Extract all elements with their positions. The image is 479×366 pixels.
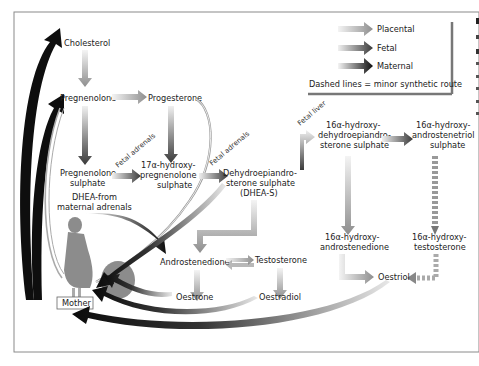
node-mother: Mother [62,298,92,308]
arrow-pregnenolone-sulphate [78,106,92,165]
progesterone-to-mother-curve [96,99,211,282]
arrow-cholesterol-pregnenolone [78,50,92,87]
node-dhea-maternal: DHEA-from maternal adrenals [57,192,132,212]
mother-figure-icon [64,217,93,301]
svg-text:Maternal: Maternal [377,61,413,71]
legend-item-maternal: Maternal [338,58,413,74]
svg-text:androstenedione: androstenedione [320,242,389,252]
svg-text:16α-hydroxy-: 16α-hydroxy- [412,232,466,242]
node-16a-hydroxy-androstenedione: 16α-hydroxy- androstenedione [320,232,389,252]
svg-text:sulphate: sulphate [70,178,105,188]
svg-text:sterone sulphate: sterone sulphate [226,178,295,188]
svg-text:(DHEA-S): (DHEA-S) [240,188,278,198]
maternal-supply-arrows [20,28,64,300]
node-progesterone: Progesterone [148,93,202,103]
placental-arrow-icon [338,22,373,36]
arrow-progesterone-17ahydroxy [164,106,178,163]
maternal-arrow-icon [338,58,373,74]
node-dheas: Dehydroepiandro- sterone sulphate (DHEA-… [223,168,297,198]
arrow-16ahdheas-16ahandrostenedione [341,156,355,235]
svg-text:androstenetriol: androstenetriol [412,130,474,140]
node-androstenedione: Androstenedione [160,257,230,267]
arrow-pregsulph-17ahydroxy [112,169,141,183]
svg-text:sulphate: sulphate [430,140,465,150]
oestriol-synthesis-diagram: Placental Fetal Maternal Dashed lines = … [0,0,479,366]
node-16a-hydroxy-testosterone: 16α-hydroxy- testosterone [412,232,466,252]
svg-text:Placental: Placental [377,24,414,34]
label-fetal-liver: Fetal liver [296,99,328,127]
node-oestriol: Oestriol [378,272,410,282]
svg-text:16α-hydroxy-: 16α-hydroxy- [416,120,470,130]
node-16a-hydroxy-androstenetriol: 16α-hydroxy- androstenetriol sulphate [412,120,474,150]
arrow-16ahandrostenedione-oestriol [339,254,374,284]
svg-text:DHEA-from: DHEA-from [72,192,117,202]
svg-text:17α-hydroxy-: 17α-hydroxy- [141,160,195,170]
svg-text:Pregnenolone: Pregnenolone [60,168,116,178]
fetal-arrow-icon [338,41,373,55]
arrow-dheas-16ahydroxy-dheas [288,130,315,170]
svg-text:pregnenolone: pregnenolone [140,170,197,180]
label-fetal-adrenals-2: Fetal adrenals [208,130,251,168]
legend: Placental Fetal Maternal Dashed lines = … [308,22,462,94]
svg-text:testosterone: testosterone [414,242,466,252]
svg-text:sterone sulphate: sterone sulphate [320,140,389,150]
node-cholesterol: Cholesterol [64,38,110,48]
legend-note: Dashed lines = minor synthetic route [309,79,462,89]
svg-text:dehydroepiandro-: dehydroepiandro- [318,130,391,140]
svg-text:sulphate: sulphate [157,180,192,190]
legend-item-fetal: Fetal [338,41,397,55]
legend-item-placental: Placental [338,22,414,36]
svg-text:maternal adrenals: maternal adrenals [57,202,132,212]
node-oestrone: Oestrone [176,292,213,302]
svg-text:Dehydroepiandro-: Dehydroepiandro- [223,168,297,178]
node-oestradiol: Oestradiol [259,292,301,302]
svg-text:16α-hydroxy-: 16α-hydroxy- [326,120,380,130]
svg-text:Fetal: Fetal [377,43,397,53]
node-pregnenolone-sulphate: Pregnenolone sulphate [60,168,116,188]
svg-text:16α-hydroxy-: 16α-hydroxy- [325,232,379,242]
node-testosterone: Testosterone [254,255,307,265]
node-17a-hydroxypregnenolone-sulphate: 17α-hydroxy- pregnenolone sulphate [140,160,197,190]
node-16a-hydroxy-dheas: 16α-hydroxy- dehydroepiandro- sterone su… [318,120,391,150]
arrow-dashed-16ahtestosterone-oestriol [416,254,436,278]
node-pregnenolone: Pregnenolone [60,93,116,103]
arrow-pregnenolone-progesterone [112,90,147,104]
